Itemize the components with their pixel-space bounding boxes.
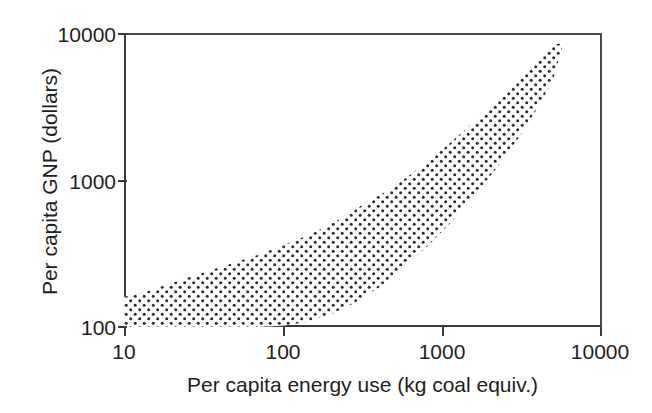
y-axis-title: Per capita GNP (dollars) [39, 52, 60, 312]
x-tick-10 [124, 327, 126, 336]
x-ticklabel-10: 10 [84, 341, 164, 362]
x-ticklabel-1000: 1000 [402, 341, 482, 362]
x-tick-10000 [600, 327, 602, 336]
x-axis-title: Per capita energy use (kg coal equiv.) [124, 374, 601, 395]
x-tick-1000 [442, 327, 444, 336]
x-ticklabel-100: 100 [243, 341, 323, 362]
stipple-band [124, 33, 601, 327]
y-ticklabel-100: 100 [28, 317, 116, 338]
chart-figure: 10000 1000 100 10 100 1000 10000 Per cap… [0, 0, 652, 413]
x-ticklabel-10000: 10000 [560, 341, 640, 362]
y-tick-1000 [118, 180, 127, 182]
y-ticklabel-10000: 10000 [28, 24, 116, 45]
x-tick-100 [283, 327, 285, 336]
y-tick-10000 [118, 33, 127, 35]
